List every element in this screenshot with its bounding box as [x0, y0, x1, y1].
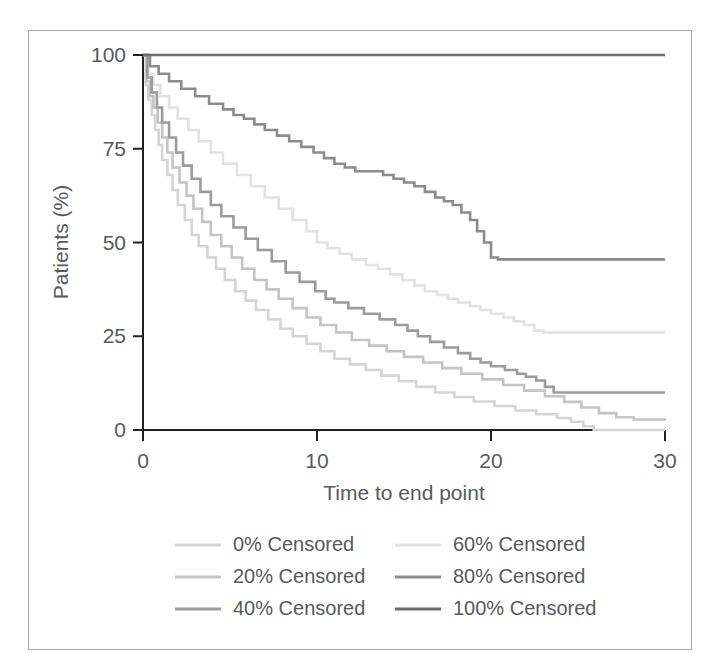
survival-curve-chart: 0255075100 Patients (%) 0102030 Time to …	[0, 0, 722, 653]
y-tick-label: 0	[114, 418, 126, 441]
legend-item: 80% Censored	[395, 565, 585, 587]
legend-item: 60% Censored	[395, 533, 585, 555]
legend-item: 20% Censored	[175, 565, 365, 587]
y-tick-label: 50	[103, 231, 126, 254]
legend-label: 100% Censored	[453, 597, 596, 619]
x-axis-title: Time to end point	[323, 481, 485, 504]
series-line	[143, 55, 665, 259]
legend-item: 0% Censored	[175, 533, 354, 555]
legend-item: 40% Censored	[175, 597, 365, 619]
y-tick-marks	[133, 55, 143, 430]
x-tick-marks	[143, 430, 665, 441]
series-line	[143, 55, 665, 393]
x-tick-label: 10	[305, 449, 328, 472]
y-tick-label: 100	[91, 43, 126, 66]
legend-label: 40% Censored	[233, 597, 365, 619]
y-tick-label: 25	[103, 324, 126, 347]
y-axis-title: Patients (%)	[49, 185, 72, 299]
data-series-group	[143, 55, 665, 430]
legend-label: 80% Censored	[453, 565, 585, 587]
x-axis: 0102030 Time to end point	[137, 430, 677, 504]
x-tick-label: 0	[137, 449, 149, 472]
legend-label: 60% Censored	[453, 533, 585, 555]
chart-legend: 0% Censored20% Censored40% Censored60% C…	[175, 533, 596, 619]
legend-item: 100% Censored	[395, 597, 596, 619]
y-axis: 0255075100 Patients (%)	[49, 43, 143, 441]
y-tick-labels: 0255075100	[91, 43, 126, 441]
x-tick-labels: 0102030	[137, 449, 677, 472]
y-tick-label: 75	[103, 137, 126, 160]
x-tick-label: 20	[479, 449, 502, 472]
x-tick-label: 30	[653, 449, 676, 472]
legend-label: 0% Censored	[233, 533, 354, 555]
series-line	[143, 55, 665, 421]
legend-label: 20% Censored	[233, 565, 365, 587]
series-line	[143, 55, 665, 333]
